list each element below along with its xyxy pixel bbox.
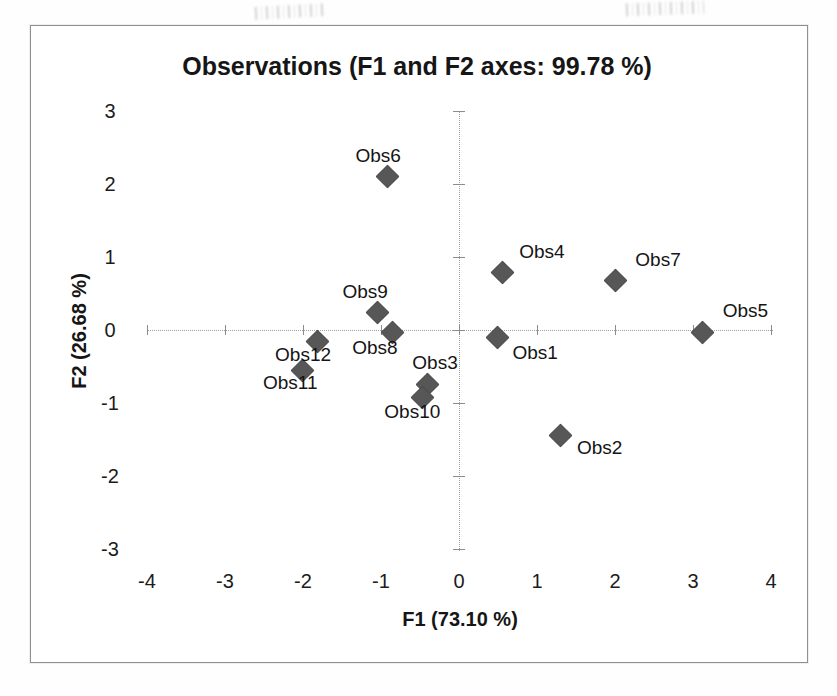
x-tick-label: 1 (531, 570, 542, 593)
y-tick-label: -3 (101, 538, 119, 561)
data-point-obs6 (376, 164, 400, 188)
x-tick-label: -4 (138, 570, 156, 593)
point-label-obs6: Obs6 (356, 145, 401, 167)
point-label-obs3: Obs3 (412, 352, 457, 374)
x-axis-tick (615, 325, 616, 335)
data-point-obs7 (603, 269, 627, 293)
x-tick-label: 0 (453, 570, 464, 593)
point-label-obs11: Obs11 (263, 372, 318, 394)
y-axis-tick (453, 476, 465, 477)
y-axis-tick (453, 257, 465, 258)
data-point-obs2 (548, 424, 572, 448)
point-label-obs8: Obs8 (352, 337, 397, 359)
point-label-obs2: Obs2 (577, 437, 622, 459)
x-axis-tick (537, 325, 538, 335)
x-axis-tick (147, 325, 148, 335)
point-label-obs9: Obs9 (342, 281, 387, 303)
page: Observations (F1 and F2 axes: 99.78 %) F… (0, 0, 837, 696)
y-tick-label: -2 (101, 465, 119, 488)
point-label-obs10: Obs10 (384, 401, 440, 423)
data-point-obs9 (366, 301, 390, 325)
y-axis-tick (453, 184, 465, 185)
y-axis-tick (453, 403, 465, 404)
x-axis-tick (303, 325, 304, 335)
point-label-obs5: Obs5 (723, 300, 768, 322)
x-tick-label: -2 (294, 570, 312, 593)
y-tick-label: -1 (101, 392, 119, 415)
y-axis-tick (453, 549, 465, 550)
y-tick-label: 0 (104, 319, 115, 342)
y-tick-label: 2 (104, 173, 115, 196)
y-axis-tick (453, 111, 465, 112)
y-axis-tick (453, 330, 465, 331)
data-point-obs4 (490, 260, 514, 284)
x-tick-label: 2 (609, 570, 620, 593)
point-label-obs12: Obs12 (275, 344, 331, 366)
y-tick-label: 1 (104, 246, 115, 269)
point-label-obs4: Obs4 (519, 241, 564, 263)
plot-area: -4-3-2-101234-3-2-10123Obs1Obs2Obs3Obs4O… (0, 0, 837, 696)
y-tick-label: 3 (104, 100, 115, 123)
x-tick-label: -3 (216, 570, 234, 593)
point-label-obs1: Obs1 (513, 342, 558, 364)
x-axis-tick (225, 325, 226, 335)
x-tick-label: 4 (765, 570, 776, 593)
x-tick-label: -1 (372, 570, 390, 593)
data-point-obs5 (691, 321, 715, 345)
x-tick-label: 3 (687, 570, 698, 593)
x-axis-tick (771, 325, 772, 335)
point-label-obs7: Obs7 (635, 249, 680, 271)
